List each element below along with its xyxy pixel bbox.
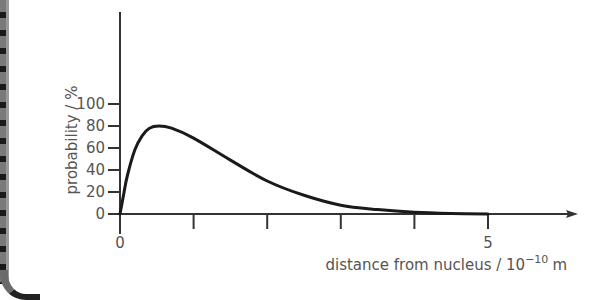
probability-curve xyxy=(120,126,488,214)
x-axis-label-text: distance from nucleus / 10 xyxy=(325,256,525,274)
y-tick-label: 40 xyxy=(86,161,105,179)
y-tick-label: 60 xyxy=(86,139,105,157)
x-tick-label: 0 xyxy=(115,234,125,252)
x-axis-label-exponent: −10 xyxy=(525,253,548,266)
y-axis-label: probability / % xyxy=(63,86,81,195)
y-tick-label: 0 xyxy=(95,205,105,223)
x-axis-label: distance from nucleus / 10−10m xyxy=(325,253,567,274)
x-axis-label-unit: m xyxy=(552,256,567,274)
y-tick-label: 80 xyxy=(86,117,105,135)
x-axis-ticks: 05 xyxy=(115,214,493,252)
x-tick-label: 5 xyxy=(483,234,493,252)
y-tick-label: 20 xyxy=(86,183,105,201)
y-axis-ticks: 020406080100 xyxy=(76,95,120,223)
axes xyxy=(114,12,578,234)
